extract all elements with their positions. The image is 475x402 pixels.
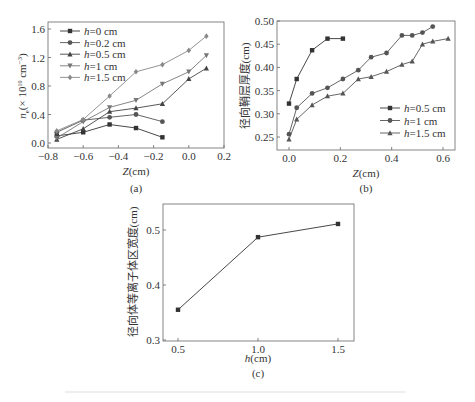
data-point-marker [341,77,346,82]
legend-item-label: h=1.5 cm [404,127,446,139]
chart-a-y-axis-title: ne(× 1010 cm−3) [16,53,31,119]
legend-item-label: h=1.5 cm [84,71,126,83]
y-tick-label: 0.4 [146,279,160,291]
y-tick-label: 0.8 [31,80,45,92]
x-tick-label: 0.4 [385,152,399,164]
data-point-marker [294,105,299,110]
legend-item-label: h=0 cm [84,25,118,37]
data-point-marker [384,51,389,56]
data-point-marker [160,62,164,68]
series-line [57,55,207,138]
chart-b-ticks: 0.00.20.40.60.250.300.350.400.450.50 [255,15,451,164]
chart-a-x-axis-title: Z(cm) [123,165,150,178]
figure-canvas: −0.8−0.6−0.4−0.20.00.20.00.40.81.21.6 h=… [0,0,475,402]
data-point-marker [400,33,405,38]
x-tick-label: −0.2 [144,150,164,162]
x-tick-label: −0.4 [108,150,128,162]
data-point-marker [134,112,139,117]
legend-item-label: h=1 cm [84,60,118,72]
y-tick-label: 0.45 [255,38,275,50]
data-point-marker [410,33,415,38]
chart-c-ticks: 0.51.01.50.30.40.5 [146,224,345,355]
chart-c: 0.51.01.50.30.40.5 h(cm) 径向体等离子体区宽度(cm) … [126,204,354,380]
chart-c-y-axis-title: 径向体等离子体区宽度(cm) [126,206,140,337]
data-point-marker [325,36,329,40]
data-point-marker [310,48,314,52]
y-tick-label: 0.35 [255,85,275,97]
y-tick-label: 0.50 [255,15,275,27]
data-point-marker [410,59,415,64]
chart-b: 0.00.20.40.60.250.300.350.400.450.50 h=0… [238,15,455,195]
data-point-marker [204,65,209,70]
data-point-marker [107,115,112,120]
data-point-marker [186,70,191,75]
data-point-marker [310,91,315,96]
x-tick-label: −0.6 [73,150,93,162]
y-tick-label: 1.2 [31,52,45,64]
data-point-marker [160,135,164,139]
chart-a-legend: h=0 cmh=0.2 cmh=0.5 cmh=1 cmh=1.5 cm [60,25,126,83]
y-tick-label: 0.3 [146,334,160,346]
chart-b-legend: h=0.5 cmh=1 cmh=1.5 cm [380,102,446,139]
data-point-marker [160,82,165,87]
legend-marker-icon [68,40,73,45]
legend-marker-icon [68,29,72,33]
data-point-marker [187,48,191,54]
chart-c-panel-label: (c) [252,367,265,380]
x-tick-label: 0.2 [217,150,231,162]
y-tick-label: 0.0 [31,137,45,149]
data-point-marker [341,36,345,40]
chart-a-ticks: −0.8−0.6−0.4−0.20.00.20.00.40.81.21.6 [31,23,231,162]
x-tick-label: 0.0 [182,150,196,162]
legend-marker-icon [388,106,392,110]
x-tick-label: 1.5 [331,343,345,355]
y-tick-label: 0.30 [255,108,275,120]
data-point-marker [369,55,374,60]
data-point-marker [107,105,112,110]
chart-a: −0.8−0.6−0.4−0.20.00.20.00.40.81.21.6 h=… [16,22,231,195]
data-point-marker [286,137,291,142]
legend-item-label: h=0.2 cm [84,37,126,49]
data-point-marker [384,69,389,74]
legend-item-label: h=1 cm [404,115,438,127]
legend-marker-icon [388,118,393,123]
x-tick-label: 0.2 [333,152,347,164]
chart-a-series [54,33,209,141]
data-point-marker [176,308,180,312]
x-tick-label: 0.0 [282,152,296,164]
data-point-marker [287,101,291,105]
y-tick-label: 1.6 [31,23,45,35]
x-tick-label: 0.6 [436,152,450,164]
chart-c-plot-frame [163,204,354,341]
y-tick-label: 0.25 [255,131,275,143]
y-tick-label: 0.5 [146,224,160,236]
chart-c-x-axis-title: h(cm) [245,352,272,365]
data-point-marker [295,77,299,81]
legend-item-label: h=0.5 cm [404,102,446,114]
chart-b-x-axis-title: Z(cm) [353,167,380,180]
legend-marker-icon [68,75,72,81]
legend-item-label: h=0.5 cm [84,48,126,60]
data-point-marker [81,126,86,131]
caption-faint-line [65,391,405,393]
data-point-marker [356,68,361,73]
chart-b-panel-label: (b) [360,182,373,195]
chart-b-y-axis-title: 径向鞘层厚度(cm) [238,42,252,129]
data-point-marker [420,30,425,35]
y-tick-label: 0.4 [31,109,45,121]
data-point-marker [134,126,138,130]
x-tick-label: −0.8 [38,150,58,162]
data-point-marker [204,33,208,39]
data-point-marker [325,85,330,90]
data-point-marker [186,76,191,81]
series-line [57,68,207,139]
data-point-marker [430,24,435,29]
x-tick-label: 0.5 [171,343,185,355]
chart-c-series [176,222,340,312]
data-point-marker [107,122,111,126]
series-line [289,39,343,104]
data-point-marker [336,222,340,226]
data-point-marker [160,119,165,124]
y-tick-label: 0.40 [255,61,275,73]
chart-a-panel-label: (a) [130,182,143,195]
